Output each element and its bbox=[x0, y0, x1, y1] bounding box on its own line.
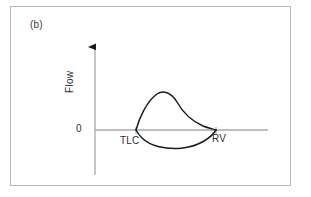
zero-tick-label: 0 bbox=[76, 123, 82, 134]
figure-root: (b) Flow 0 TLC RV bbox=[0, 0, 311, 197]
tlc-label: TLC bbox=[120, 135, 140, 146]
rv-label: RV bbox=[212, 133, 226, 144]
expiratory-limb-curve bbox=[136, 92, 216, 130]
flow-volume-loop-plot bbox=[0, 0, 311, 197]
inspiratory-limb-curve bbox=[136, 130, 216, 149]
y-axis-title: Flow bbox=[64, 71, 75, 93]
